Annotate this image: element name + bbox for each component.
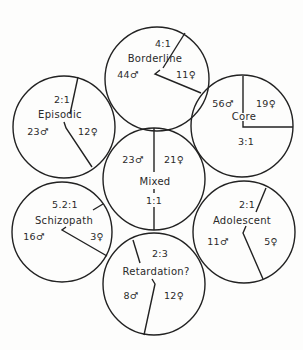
schizopath-title: Schizopath [35, 215, 93, 226]
episodic-ratio: 2:1 [54, 94, 70, 105]
episodic-title: Episodic [38, 109, 82, 120]
adolescent-title: Adolescent [213, 215, 271, 226]
core-male: 56♂ [212, 98, 234, 109]
divider-retardation [133, 240, 140, 263]
retardation-female: 12♀ [164, 290, 184, 301]
mixed-title: Mixed [139, 176, 170, 187]
divider-adolescent [256, 188, 266, 212]
circle-core [191, 75, 293, 177]
divider-schizopath [93, 204, 103, 210]
borderline-ratio: 4:1 [155, 38, 171, 49]
diagram-stage: 4:1 Borderline 44♂ 11♀ 2:1 Episodic 23♂ … [0, 0, 303, 350]
core-female: 19♀ [256, 98, 276, 109]
borderline-female: 11♀ [176, 69, 196, 80]
retardation-title: Retardation? [122, 266, 189, 277]
adolescent-ratio: 2:1 [239, 199, 255, 210]
borderline-title: Borderline [128, 53, 183, 64]
episodic-male: 23♂ [27, 126, 49, 137]
adolescent-male: 11♂ [207, 236, 229, 247]
core-ratio: 3:1 [238, 136, 254, 147]
mixed-ratio: 1:1 [146, 195, 162, 206]
mixed-male: 23♂ [122, 154, 144, 165]
retardation-ratio: 2:3 [152, 248, 168, 259]
schizopath-male: 16♂ [23, 231, 45, 242]
adolescent-female: 5♀ [264, 236, 278, 247]
mixed-female: 21♀ [164, 154, 184, 165]
schizopath-female: 3♀ [90, 231, 104, 242]
schizopath-ratio: 5.2:1 [52, 199, 78, 210]
episodic-female: 12♀ [78, 126, 98, 137]
borderline-male: 44♂ [117, 69, 139, 80]
core-title: Core [232, 111, 256, 122]
retardation-male: 8♂ [123, 290, 138, 301]
